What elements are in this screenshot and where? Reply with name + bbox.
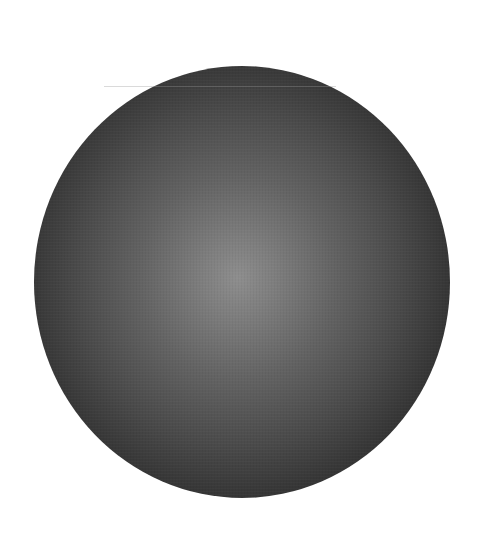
gray-sphere xyxy=(34,66,450,498)
image-canvas xyxy=(0,0,485,550)
scan-artifact-line xyxy=(104,86,336,87)
